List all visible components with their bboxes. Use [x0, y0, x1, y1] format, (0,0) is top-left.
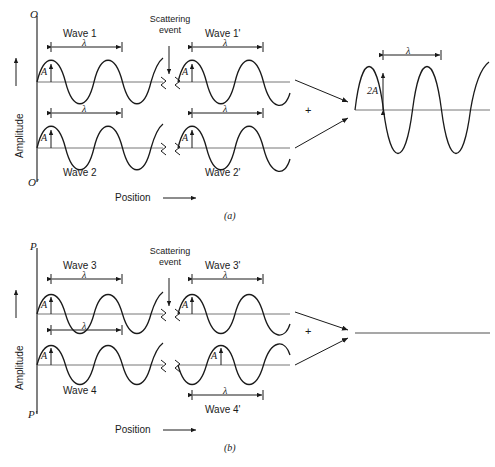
wave-2-amplitude-label: A: [41, 132, 47, 143]
panel-a-axis-top-label: O: [30, 8, 38, 20]
panel-a-axis-bottom-label: O': [28, 176, 38, 188]
wave-3-amplitude-label: A: [41, 299, 47, 310]
wave-4prime-label: Wave 4': [205, 404, 240, 415]
panel-a-caption: (a): [224, 210, 236, 221]
panel-b-wavelength-markers: [51, 274, 263, 400]
panel-b-x-axis-label: Position: [115, 424, 151, 435]
panel-b-amplitude-markers: [51, 297, 221, 365]
wave-1-amplitude-label: A: [41, 66, 47, 77]
wave-1-label: Wave 1: [63, 28, 97, 39]
wave-2prime-wavelength-label: λ: [223, 103, 227, 114]
panel-b-sum-arrows: [295, 312, 348, 365]
wave-2-wavelength-label: λ: [82, 103, 86, 114]
wave-4prime-curve: [178, 344, 290, 384]
panel-a-sum-arrows: [295, 80, 348, 148]
panel-a-y-axis-label: Amplitude: [14, 114, 25, 158]
wave-4prime-amplitude-label: A: [211, 350, 217, 361]
panel-b-axis-bottom-label: P': [28, 408, 37, 420]
wave-3-curve: [37, 292, 163, 334]
wave-3-label: Wave 3: [63, 260, 97, 271]
wave-3-wavelength-label: λ: [82, 269, 86, 280]
figure-canvas: [0, 0, 495, 467]
panel-a-plus-sign: +: [305, 104, 311, 116]
panel-b-plus-sign: +: [305, 325, 311, 337]
panel-b-scattering-label-2: event: [141, 257, 199, 267]
panel-b-axis-top-label: P: [30, 240, 37, 252]
panel-a-scattering-label-1: Scattering: [141, 14, 199, 24]
panel-a-x-axis-label: Position: [115, 192, 151, 203]
wave-2prime-curve: [178, 126, 290, 171]
wave-3prime-amplitude-label: A: [182, 299, 188, 310]
panel-a-resultant-wavelength-marker: [383, 50, 441, 60]
wave-1prime-amplitude-label: A: [182, 66, 188, 77]
panel-b-baselines: [37, 314, 290, 365]
wave-4-amplitude-label: A: [41, 350, 47, 361]
panel-b-break-symbol: [161, 309, 180, 372]
wave-2-curve: [37, 124, 163, 170]
wave-3prime-curve: [178, 295, 290, 335]
wave-4-label: Wave 4: [63, 385, 97, 396]
interference-figure: O O' Amplitude Wave 1 Wave 2 Wave 1' Wav…: [0, 0, 495, 467]
panel-b-caption: (b): [224, 442, 236, 453]
wave-1prime-wavelength-label: λ: [223, 37, 227, 48]
panel-a-scattering-label-2: event: [141, 25, 199, 35]
wave-1prime-curve: [178, 60, 290, 105]
wave-1-wavelength-label: λ: [82, 37, 86, 48]
wave-4prime-wavelength-label: λ: [223, 385, 227, 396]
panel-b-y-axis-label: Amplitude: [14, 346, 25, 390]
wave-4-curve: [37, 343, 163, 385]
panel-b-scattering-label-1: Scattering: [141, 246, 199, 256]
panel-a-resultant-curve: [355, 62, 489, 154]
panel-a-break-symbol: [161, 77, 180, 155]
wave-2-label: Wave 2: [63, 167, 97, 178]
panel-a-resultant-wavelength-label: λ: [406, 45, 410, 56]
wave-2prime-label: Wave 2': [205, 167, 240, 178]
wave-2prime-amplitude-label: A: [182, 132, 188, 143]
wave-4-wavelength-label: λ: [82, 320, 86, 331]
panel-a-baselines: [37, 82, 290, 148]
wave-1-curve: [37, 58, 163, 104]
wave-3prime-wavelength-label: λ: [223, 269, 227, 280]
panel-a-resultant-amplitude-label: 2A: [367, 85, 378, 96]
